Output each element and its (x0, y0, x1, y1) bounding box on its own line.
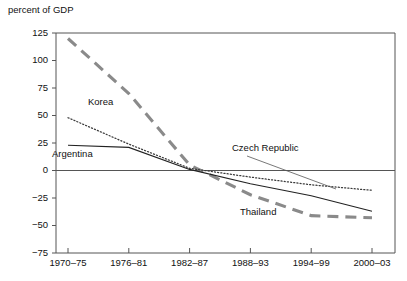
y-tick-marks (52, 33, 56, 253)
series-line-thailand (68, 39, 372, 218)
y-tick-label: 125 (32, 27, 48, 38)
y-tick-label: 50 (37, 109, 48, 120)
y-tick-label: 100 (32, 54, 48, 65)
y-tick-label: 75 (37, 82, 48, 93)
y-tick-labels: 125 100 75 50 25 0 −25 −50 −75 (32, 27, 48, 258)
series-line-korea (68, 118, 372, 191)
plot-frame (56, 33, 395, 253)
x-tick-label: 1988–93 (232, 257, 269, 268)
data-series-group (68, 39, 372, 218)
chart-page: percent of GDP 125 100 75 5 (0, 0, 407, 281)
y-tick-label: −25 (32, 192, 48, 203)
series-label-thailand: Thailand (240, 206, 276, 217)
y-tick-label: −75 (32, 247, 48, 258)
x-tick-label: 1970–75 (50, 257, 87, 268)
series-label-korea: Korea (88, 96, 114, 107)
x-tick-marks (68, 248, 372, 253)
leader-line-czech-republic (247, 156, 336, 189)
x-tick-label: 1976–81 (110, 257, 147, 268)
series-label-czech-republic: Czech Republic (232, 142, 299, 153)
x-tick-labels: 1970–75 1976–81 1982–87 1988–93 1994–99 … (50, 257, 391, 268)
x-tick-label: 1994–99 (293, 257, 330, 268)
x-tick-label: 2000–03 (354, 257, 391, 268)
y-tick-label: 0 (43, 164, 48, 175)
series-label-argentina: Argentina (52, 148, 93, 159)
annotation-leaders (247, 156, 336, 189)
y-tick-label: 25 (37, 137, 48, 148)
y-tick-label: −50 (32, 219, 48, 230)
chart-canvas: 125 100 75 50 25 0 −25 −50 −75 1970–75 1… (0, 0, 407, 281)
x-tick-label: 1982–87 (171, 257, 208, 268)
